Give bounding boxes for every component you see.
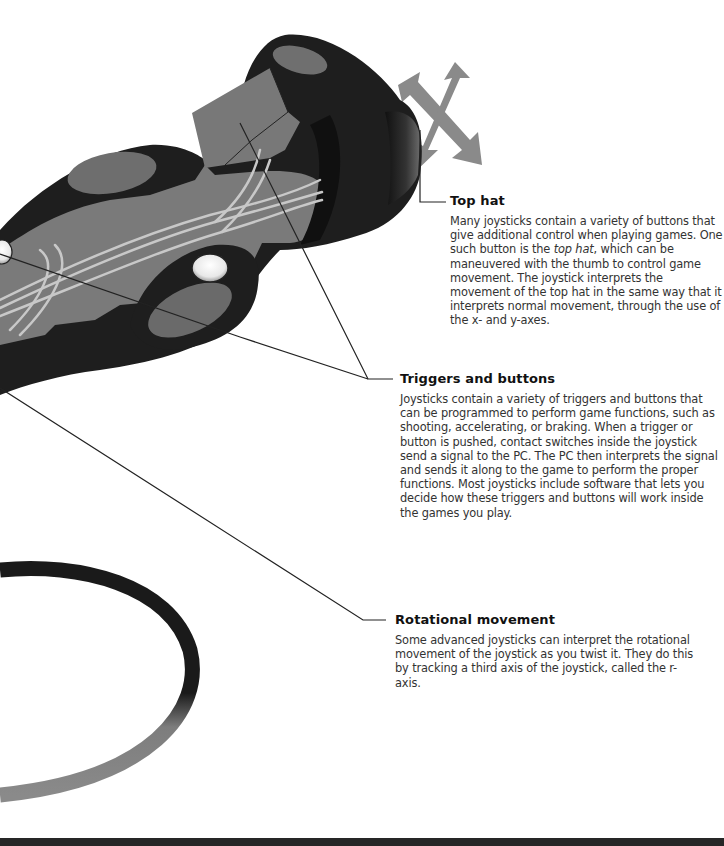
emphasis-term: top hat <box>554 242 594 256</box>
callout-body-rotational: Some advanced joysticks can interpret th… <box>395 633 695 690</box>
callout-body-top-hat: Many joysticks contain a variety of butt… <box>450 214 724 328</box>
callout-title-top-hat: Top hat <box>450 193 724 209</box>
callout-rotational-movement: Rotational movement Some advanced joysti… <box>395 612 695 690</box>
callout-title-rotational: Rotational movement <box>395 612 695 628</box>
joystick-cord <box>0 568 192 795</box>
callout-top-hat: Top hat Many joysticks contain a variety… <box>450 193 724 328</box>
callout-body-triggers: Joysticks contain a variety of triggers … <box>400 392 724 520</box>
joystick-body <box>0 35 422 395</box>
callout-triggers-and-buttons: Triggers and buttons Joysticks contain a… <box>400 371 724 520</box>
page-bottom-band <box>0 838 724 846</box>
callout-title-triggers: Triggers and buttons <box>400 371 724 387</box>
